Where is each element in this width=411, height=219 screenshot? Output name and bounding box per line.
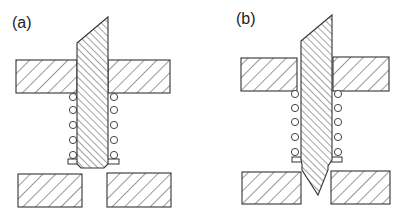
lower-plate-right: [331, 171, 390, 204]
panel-b-label: (b): [236, 10, 256, 27]
panel-a-label: (a): [12, 14, 32, 31]
pin: [77, 17, 108, 168]
lower-plate-left: [18, 174, 82, 207]
upper-plate-left: [241, 58, 297, 91]
pin: [301, 15, 332, 195]
upper-plate-left: [16, 60, 77, 93]
lower-plate-right: [107, 173, 171, 207]
upper-plate-right: [333, 57, 389, 91]
spring-coil-right: [110, 93, 117, 158]
mechanism-diagram: (a) (b): [0, 0, 411, 219]
spring-coil-left: [291, 90, 298, 155]
panel-a: (a): [12, 14, 171, 207]
spring-coil-right: [334, 90, 341, 155]
upper-plate-right: [108, 60, 170, 93]
panel-b: (b): [236, 10, 390, 204]
lower-plate-left: [242, 172, 301, 204]
spring-coil-left: [69, 93, 76, 158]
